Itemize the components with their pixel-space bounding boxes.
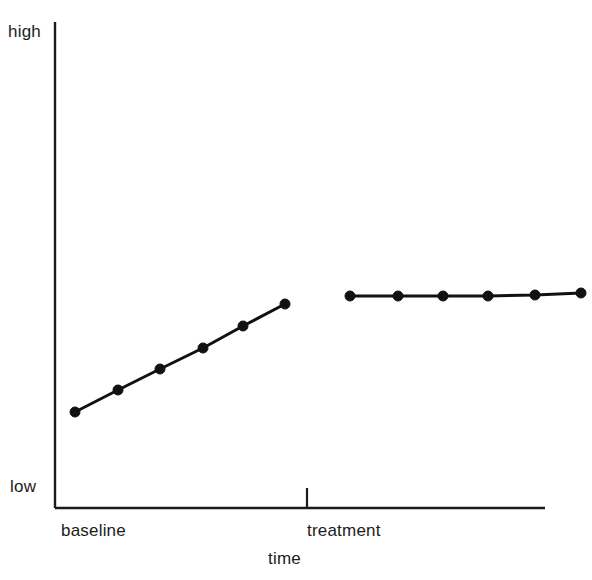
series-baseline xyxy=(70,299,290,417)
data-point-baseline-3 xyxy=(155,364,165,374)
data-point-baseline-5 xyxy=(238,321,248,331)
data-point-treatment-4 xyxy=(483,291,493,301)
series-treatment xyxy=(345,288,586,301)
chart-figure: high low baseline treatment time xyxy=(0,0,592,580)
data-point-baseline-6 xyxy=(280,299,290,309)
data-point-treatment-3 xyxy=(438,291,448,301)
data-point-treatment-5 xyxy=(530,290,540,300)
data-point-treatment-1 xyxy=(345,291,355,301)
axis-lines xyxy=(55,22,545,508)
data-point-treatment-6 xyxy=(576,288,586,298)
data-point-baseline-4 xyxy=(198,343,208,353)
data-series-group xyxy=(70,288,586,417)
series-line-treatment xyxy=(350,293,581,296)
data-point-baseline-2 xyxy=(113,385,123,395)
series-line-baseline xyxy=(75,304,285,412)
plot-area xyxy=(0,0,592,580)
data-point-baseline-1 xyxy=(70,407,80,417)
data-point-treatment-2 xyxy=(393,291,403,301)
